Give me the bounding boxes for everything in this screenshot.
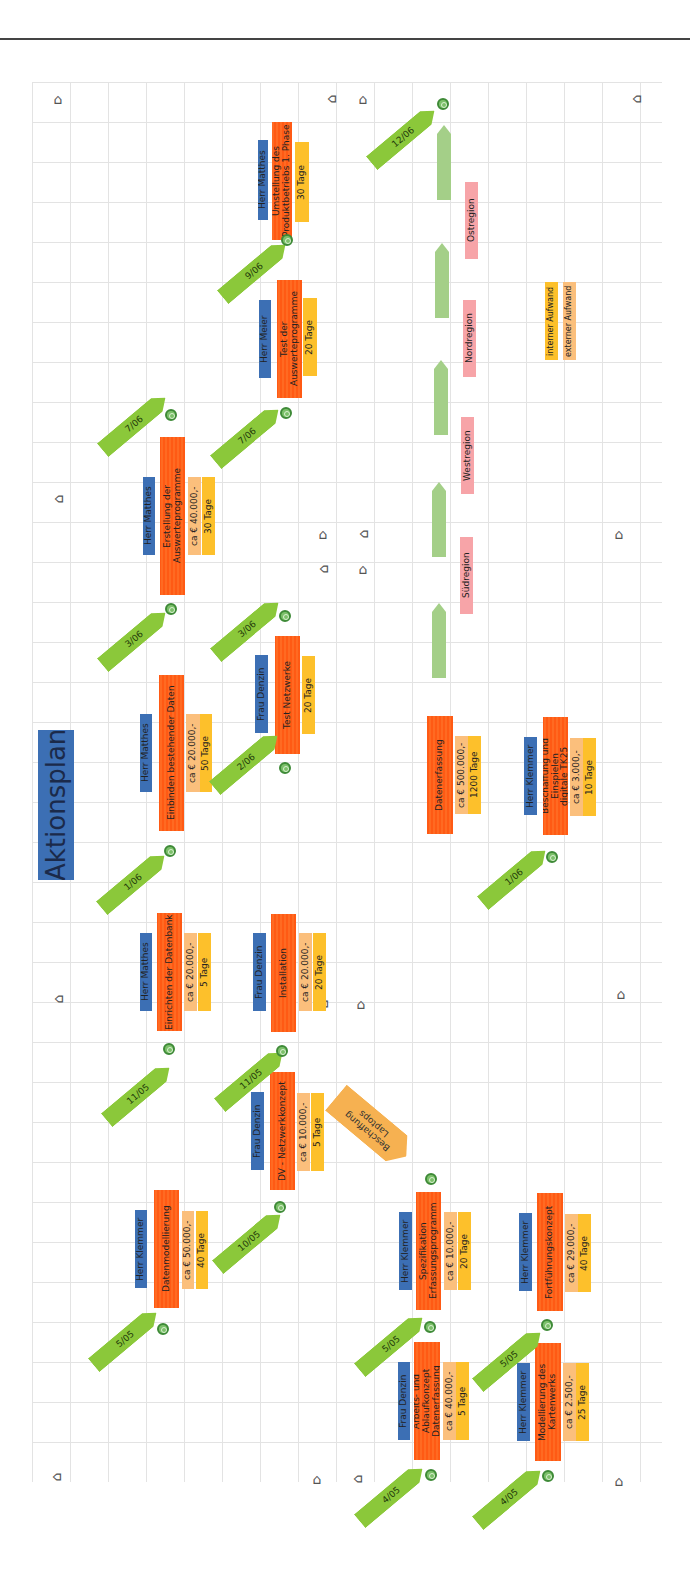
person-label: Herr Klemmer [524, 737, 537, 815]
duration-label: 5 Tage [198, 933, 211, 1011]
milestone-icon [274, 1201, 286, 1213]
page-edge-line [0, 38, 690, 40]
task-card: Beschaffung und Einspielen digitale TK25 [543, 717, 568, 835]
house-logo-icon: ⌂ [610, 985, 632, 1003]
cost-label: ca € 500.000,- [455, 736, 468, 814]
house-logo-icon: ⌂ [47, 1466, 65, 1488]
milestone-icon [165, 603, 177, 615]
cost-label: ca € 3.000,- [570, 738, 583, 816]
duration-label: 5 Tage [311, 1093, 324, 1171]
duration-label: 5 Tage [456, 1362, 469, 1440]
region-label-nord: Nordregion [463, 300, 476, 377]
region-arrow [432, 482, 446, 557]
house-logo-icon: ⌂ [306, 1470, 328, 1488]
duration-label: 25 Tage [576, 1363, 589, 1441]
duration-label: 40 Tage [578, 1214, 591, 1292]
task-card: Einrichten der Datenbank [157, 913, 182, 1031]
person-label: Frau Denzin [398, 1362, 410, 1440]
milestone-icon [281, 234, 293, 246]
region-label-west: Westregion [461, 417, 474, 494]
person-label: Frau Denzin [255, 655, 268, 733]
milestone-icon [165, 409, 177, 421]
milestone-icon [163, 1043, 175, 1055]
legend-internal: interner Aufwand [545, 282, 558, 360]
region-arrow [435, 243, 449, 318]
person-label: Herr Meier [259, 300, 271, 378]
house-logo-icon: ⌂ [47, 90, 69, 108]
milestone-icon [276, 1045, 288, 1057]
cost-label: ca € 40.000,- [188, 477, 201, 555]
page-title: Aktionsplan [38, 730, 74, 880]
task-card: Arbeits- und Ablaufkonzept Datenerfassun… [414, 1342, 440, 1460]
cost-label: ca € 29.000,- [565, 1214, 578, 1292]
task-card: Umstellung des Produktbetriebs 1. Phase [272, 122, 292, 240]
cost-label: ca € 20.000,- [299, 933, 312, 1011]
person-label: Herr Matthes [258, 140, 268, 220]
region-arrow [434, 360, 448, 435]
task-card: Datenerfassung [427, 716, 453, 834]
region-arrow [437, 125, 451, 200]
person-label: Herr Matthes [140, 714, 152, 792]
duration-label: 1200 Tage [468, 736, 481, 814]
cost-label: ca € 20.000,- [186, 714, 200, 792]
task-card: Test der Auswerteprogramme [277, 280, 302, 398]
milestone-icon [157, 1323, 169, 1335]
cost-label: ca € 10.000,- [444, 1212, 457, 1290]
cost-label: ca € 40.000,- [443, 1362, 456, 1440]
duration-label: 20 Tage [313, 933, 326, 1011]
milestone-icon [280, 407, 292, 419]
task-card: DV - Netzwerkkonzept [270, 1072, 295, 1190]
duration-label: 20 Tage [302, 656, 315, 734]
milestone-icon [425, 1469, 437, 1481]
region-label-ost: Ostregion [465, 182, 478, 259]
region-arrow [432, 603, 446, 678]
house-logo-icon: ⌂ [608, 525, 630, 543]
task-card: Modellierung des Kartenwerks [535, 1343, 561, 1461]
house-logo-icon: ⌂ [627, 88, 645, 110]
person-label: Herr Klemmer [517, 1363, 530, 1441]
cost-label: ca € 10.000,- [297, 1093, 310, 1171]
house-logo-icon: ⌂ [322, 88, 340, 110]
task-card: Erstellung der Auswerteprogramme [160, 437, 185, 595]
duration-label: 10 Tage [583, 738, 596, 816]
duration-label: 20 Tage [303, 298, 317, 376]
milestone-icon [279, 610, 291, 622]
house-logo-icon: ⌂ [348, 1468, 366, 1490]
task-card: Spezifikation Erfassungsprogramm [416, 1192, 441, 1310]
region-label-sued: Südregion [460, 537, 473, 614]
house-logo-icon: ⌂ [352, 560, 374, 578]
cost-label: ca € 20.000,- [184, 933, 197, 1011]
milestone-icon [542, 1470, 554, 1482]
duration-label: 30 Tage [295, 142, 309, 222]
milestone-icon [424, 1321, 436, 1333]
milestone-icon [437, 98, 449, 110]
house-logo-icon: ⌂ [314, 558, 332, 580]
cost-label: ca € 2.500,- [563, 1363, 576, 1441]
milestone-icon [164, 845, 176, 857]
legend-external: externer Aufwand [563, 282, 576, 360]
duration-label: 40 Tage [196, 1211, 208, 1289]
duration-label: 30 Tage [202, 477, 215, 555]
house-logo-icon: ⌂ [350, 995, 372, 1013]
task-card: Datenmodellierung [154, 1190, 179, 1308]
person-label: Herr Klemmer [519, 1213, 532, 1291]
task-card: Einbinden bestehender Daten [159, 675, 184, 831]
task-card: Test Netzwerke [275, 636, 300, 754]
person-label: Herr Matthes [140, 933, 152, 1011]
milestone-icon [541, 1319, 553, 1331]
milestone-icon [546, 851, 558, 863]
house-logo-icon: ⌂ [49, 988, 67, 1010]
cost-label: ca € 50.000,- [182, 1211, 194, 1289]
task-card: Fortführungskonzept [537, 1193, 563, 1311]
person-label: Frau Denzin [253, 933, 266, 1011]
house-logo-icon: ⌂ [608, 1472, 630, 1490]
task-card: Installation [271, 914, 296, 1032]
person-label: Herr Klemmer [135, 1210, 147, 1288]
house-logo-icon: ⌂ [312, 525, 334, 543]
person-label: Herr Klemmer [399, 1212, 412, 1290]
house-logo-icon: ⌂ [354, 523, 372, 545]
milestone-icon [425, 1173, 437, 1185]
person-label: Herr Matthes [143, 477, 155, 555]
house-logo-icon: ⌂ [49, 488, 67, 510]
person-label: Frau Denzin [251, 1092, 264, 1170]
